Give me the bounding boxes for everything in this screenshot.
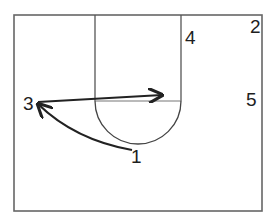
free-throw-circle xyxy=(95,101,181,144)
player-5-label: 5 xyxy=(246,89,257,110)
player-2-label: 2 xyxy=(250,16,261,37)
player-3-label: 3 xyxy=(23,93,34,114)
player-4-label: 4 xyxy=(185,27,196,48)
player-1-label: 1 xyxy=(131,146,142,167)
court-boundary xyxy=(14,15,262,211)
pass-arrow-1-to-3 xyxy=(38,104,132,150)
half-court-diagram: 1 2 3 4 5 xyxy=(0,0,278,219)
